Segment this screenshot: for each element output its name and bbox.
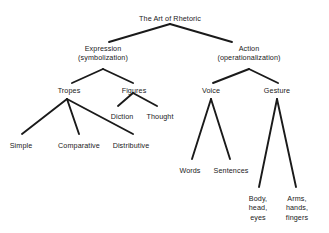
node-words: Words [179, 166, 200, 175]
edge-gesture-to-body [259, 99, 277, 187]
edge-expression-to-figures [103, 69, 133, 83]
edge-gesture-to-arms [277, 99, 296, 187]
node-gesture: Gesture [264, 86, 290, 95]
node-body-line-2: eyes [249, 213, 268, 222]
node-distributive-line-0: Distributive [113, 141, 150, 150]
node-expression-line-0: Expression [78, 44, 128, 53]
node-arms: Arms,hands,fingers [286, 194, 308, 222]
node-action-line-1: (operationalization) [217, 53, 280, 62]
node-figures-line-0: Figures [122, 86, 147, 95]
edge-voice-to-words [192, 99, 211, 159]
node-action: Action(operationalization) [217, 44, 280, 63]
node-distributive: Distributive [113, 141, 150, 150]
node-diction-line-0: Diction [111, 112, 134, 121]
node-arms-line-0: Arms, [286, 194, 308, 203]
node-sentences: Sentences [214, 166, 249, 175]
edge-expression-to-tropes [72, 69, 103, 83]
node-body-line-0: Body, [249, 194, 268, 203]
node-expression-line-1: (symbolization) [78, 53, 128, 62]
rhetoric-tree-diagram: The Art of RhetoricExpression(symbolizat… [0, 0, 329, 233]
node-root-line-0: The Art of Rhetoric [139, 14, 201, 23]
node-gesture-line-0: Gesture [264, 86, 290, 95]
node-tropes-line-0: Tropes [58, 86, 81, 95]
node-voice: Voice [202, 86, 220, 95]
node-sentences-line-0: Sentences [214, 166, 249, 175]
edge-action-to-voice [213, 69, 249, 83]
edge-voice-to-sentences [211, 99, 230, 159]
node-expression: Expression(symbolization) [78, 44, 128, 63]
node-simple-line-0: Simple [10, 141, 33, 150]
node-body: Body,head,eyes [249, 194, 268, 222]
node-thought: Thought [146, 112, 173, 121]
edge-action-to-gesture [249, 69, 278, 83]
node-root: The Art of Rhetoric [139, 14, 201, 23]
node-action-line-0: Action [217, 44, 280, 53]
edge-tropes-to-simple [22, 99, 67, 134]
node-tropes: Tropes [58, 86, 81, 95]
node-diction: Diction [111, 112, 134, 121]
node-figures: Figures [122, 86, 147, 95]
node-body-line-1: head, [249, 203, 268, 212]
edge-root-to-expression [109, 24, 170, 42]
node-comparative: Comparative [58, 141, 100, 150]
node-simple: Simple [10, 141, 33, 150]
node-voice-line-0: Voice [202, 86, 220, 95]
node-comparative-line-0: Comparative [58, 141, 100, 150]
node-arms-line-2: fingers [286, 213, 308, 222]
node-arms-line-1: hands, [286, 203, 308, 212]
node-words-line-0: Words [179, 166, 200, 175]
node-thought-line-0: Thought [146, 112, 173, 121]
edge-root-to-action [170, 24, 232, 42]
